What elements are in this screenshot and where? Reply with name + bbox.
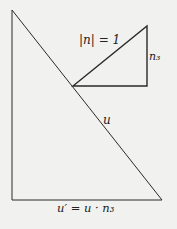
label-n3: n₃	[149, 51, 161, 62]
label-u-prime: u′ = u · n₃	[57, 203, 114, 215]
label-unit-normal: |n| = 1	[79, 34, 120, 46]
diagram-canvas: |n| = 1 n₃ u u′ = u · n₃	[0, 0, 177, 229]
label-u: u	[103, 114, 111, 126]
